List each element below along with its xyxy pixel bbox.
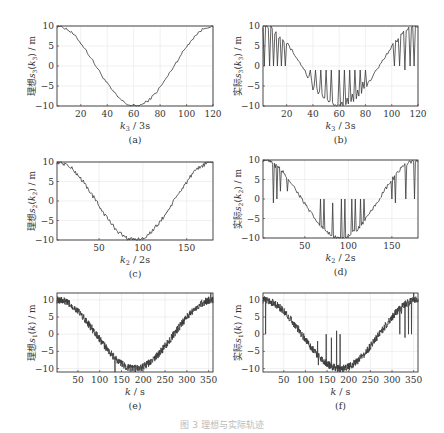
panel-label: (f) [335, 400, 346, 411]
y-tick-label: 0 [254, 329, 260, 339]
x-tick-label: 100 [297, 375, 314, 385]
y-tick-label: 10 [249, 295, 261, 305]
y-tick-label: −5 [247, 346, 261, 356]
y-axis-label: 实际s1(k) / m [232, 304, 244, 361]
x-axis-label: k / s [331, 386, 351, 397]
x-tick-label: 350 [405, 375, 422, 385]
figure-caption: 图 3 理想与实际轨迹 [0, 418, 444, 431]
y-tick-label: −10 [241, 364, 260, 374]
x-tick-label: 150 [318, 375, 335, 385]
x-tick-label: 300 [383, 375, 400, 385]
x-tick-label: 200 [340, 375, 357, 385]
chart-panel-f: 501001502002503003501050−5−10k / s(f)实际s… [0, 0, 444, 433]
series-line-actual [263, 293, 418, 372]
y-tick-label: 5 [254, 312, 260, 322]
y-tick-labels: 1050−5−10 [241, 295, 265, 374]
x-tick-label: 250 [362, 375, 379, 385]
x-tick-label: 50 [278, 375, 290, 385]
